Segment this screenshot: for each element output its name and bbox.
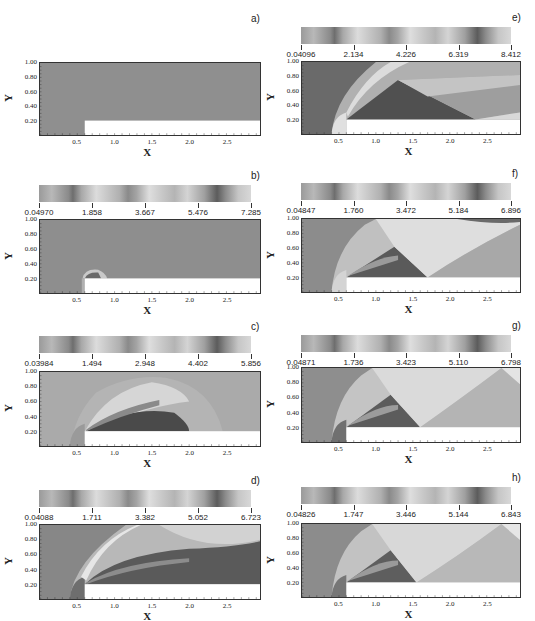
y-tick-label: 0.40 [275,101,299,109]
y-tick-label: 0.60 [13,88,37,96]
y-tick-label: 1.00 [13,367,37,375]
y-tick-label: 0.20 [275,274,299,282]
colorbar-tick-label: 5.184 [448,206,468,215]
colorbar-tick-label: 5.856 [241,359,261,368]
y-tick-label: 0.60 [13,397,37,405]
colorbar [301,335,511,352]
colorbar-tick-label: 5.052 [188,513,208,522]
y-tick-label: 0.80 [275,534,299,542]
colorbar-tick-label: 6.843 [501,510,521,519]
panel-label: c) [251,321,259,332]
flow-field [40,372,260,446]
x-axis-title: X [404,303,412,315]
y-tick-label: 0.20 [13,117,37,125]
y-tick-label: 0.60 [275,549,299,557]
x-tick-label: 2.0 [185,602,194,610]
y-tick-label: 0.80 [275,229,299,237]
colorbar-tick-label: 1.747 [343,510,363,519]
colorbar-tick-label: 1.494 [82,359,102,368]
y-tick-label: 1.00 [13,520,37,528]
colorbar-tick-label: 1.760 [343,206,363,215]
x-axis-title: X [143,457,151,469]
panel-label: g) [512,320,521,331]
y-tick-label: 0.40 [275,259,299,267]
x-tick-label: 0.5 [334,295,343,303]
x-tick-label: 1.5 [408,295,417,303]
x-tick-label: 1.5 [408,445,417,453]
y-tick-label: 0.40 [13,102,37,110]
y-tick-label: 0.60 [13,550,37,558]
colorbar-tick-label: 3.382 [135,513,155,522]
panel-label: h) [512,472,521,483]
step-body [85,584,260,599]
y-tick-label: 0.80 [13,382,37,390]
x-tick-label: 2.0 [185,296,194,304]
step-body [346,582,520,597]
x-tick-label: 1.5 [408,137,417,145]
panel-label: f) [512,168,518,179]
x-tick-label: 1.5 [148,449,157,457]
y-axis-title: Y [2,252,14,260]
x-axis-title: X [404,608,412,620]
colorbar [39,490,251,507]
y-tick-label: 0.80 [275,378,299,386]
x-tick-label: 0.5 [72,449,81,457]
x-tick-label: 1.0 [371,295,380,303]
x-tick-label: 1.0 [371,445,380,453]
y-tick-label: 0.40 [13,260,37,268]
y-tick-label: 0.60 [275,244,299,252]
panel-label: e) [512,12,521,23]
step-body [346,120,520,134]
y-tick-label: 0.40 [275,409,299,417]
x-axis-title: X [404,453,412,465]
colorbar-tick-label: 3.423 [396,358,416,367]
y-tick-label: 1.00 [275,519,299,527]
colorbar-tick-label: 5.476 [188,208,208,217]
colorbar-tick-label: 4.402 [188,359,208,368]
x-tick-label: 1.0 [371,137,380,145]
colorbar [301,487,511,504]
colorbar-tick-label: 5.144 [448,510,468,519]
x-tick-label: 0.5 [334,445,343,453]
x-tick-label: 2.5 [483,295,492,303]
plot-area [39,524,261,600]
colorbar-tick-label: 6.319 [448,50,468,59]
colorbar-tick-label: 7.285 [241,208,261,217]
colorbar-tick-label: 6.896 [501,206,521,215]
y-tick-label: 0.20 [13,581,37,589]
x-tick-label: 1.0 [110,138,119,146]
y-tick-label: 0.80 [13,535,37,543]
y-axis-title: Y [2,404,14,412]
y-tick-label: 0.60 [275,87,299,95]
step-body [85,278,260,293]
y-tick-label: 0.60 [275,393,299,401]
x-tick-label: 2.5 [223,602,232,610]
x-tick-label: 1.0 [110,602,119,610]
panel-label: b) [251,170,260,181]
x-tick-label: 2.0 [446,445,455,453]
x-axis-title: X [404,145,412,157]
x-tick-label: 2.0 [185,138,194,146]
x-tick-label: 0.5 [72,296,81,304]
y-axis-title: Y [264,93,276,101]
y-tick-label: 0.20 [13,428,37,436]
y-tick-label: 0.80 [13,230,37,238]
step-body [346,277,520,292]
x-tick-label: 2.5 [483,137,492,145]
x-tick-label: 0.5 [72,602,81,610]
y-tick-label: 0.40 [13,566,37,574]
colorbar-tick-label: 0.04826 [287,510,316,519]
step-body [346,427,520,442]
colorbar-tick-label: 4.226 [396,50,416,59]
colorbar [39,336,251,353]
x-tick-label: 2.5 [223,138,232,146]
colorbar-tick-label: 1.711 [82,513,101,522]
x-tick-label: 2.5 [483,445,492,453]
x-tick-label: 1.5 [148,296,157,304]
colorbar-tick-label: 6.723 [241,513,261,522]
x-axis-title: X [143,146,151,158]
colorbar-tick-label: 3.472 [396,206,416,215]
y-tick-label: 1.00 [275,214,299,222]
colorbar-tick-label: 2.948 [135,359,155,368]
colorbar-tick-label: 3.667 [135,208,155,217]
